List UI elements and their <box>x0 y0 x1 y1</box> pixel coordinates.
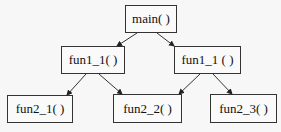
node-fun1-1-left: fun1_1( ) <box>61 46 125 74</box>
edge-arrow <box>99 74 122 94</box>
node-label: fun2_2( ) <box>123 101 172 117</box>
node-label: fun2_3( ) <box>219 101 268 117</box>
node-label: main( ) <box>132 11 170 27</box>
edge-arrow <box>67 74 86 95</box>
node-label: fun1_1( ) <box>69 52 118 68</box>
edge-arrow <box>157 33 174 46</box>
call-tree-diagram: main( ) fun1_1( ) fun1_1 ( ) fun2_1( ) f… <box>0 0 281 132</box>
node-label: fun1_1 ( ) <box>182 52 234 68</box>
edge-arrow <box>179 74 200 94</box>
node-fun2-1: fun2_1( ) <box>7 95 73 123</box>
node-fun2-3: fun2_3( ) <box>210 94 277 123</box>
node-label: fun2_1( ) <box>16 101 65 117</box>
node-fun1-1-right: fun1_1 ( ) <box>174 46 241 74</box>
node-fun2-2: fun2_2( ) <box>113 94 182 123</box>
edge-arrow <box>117 33 137 46</box>
node-main: main( ) <box>125 5 177 33</box>
edge-arrow <box>213 74 232 94</box>
